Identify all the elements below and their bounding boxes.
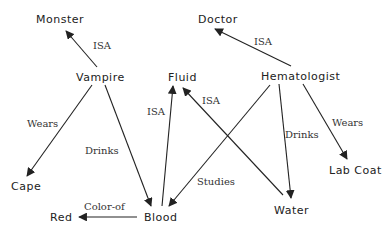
edge-label-vampire-cape: Wears bbox=[27, 118, 58, 129]
node-water: Water bbox=[274, 204, 309, 217]
edge-label-blood-fluid: ISA bbox=[147, 106, 166, 117]
node-lab-coat: Lab Coat bbox=[329, 164, 382, 177]
edge-label-hematologist-water: Drinks bbox=[285, 129, 319, 140]
edge-vampire-wears-cape bbox=[27, 85, 92, 176]
edge-label-hematologist-doctor: ISA bbox=[254, 36, 273, 47]
semantic-network-diagram: ISA ISA Wears Drinks ISA ISA Studies Dri… bbox=[0, 0, 386, 235]
node-vampire: Vampire bbox=[76, 71, 125, 84]
node-monster: Monster bbox=[36, 13, 84, 26]
edge-label-vampire-blood: Drinks bbox=[85, 145, 119, 156]
edge-label-blood-red: Color-of bbox=[84, 201, 126, 212]
node-red: Red bbox=[50, 211, 72, 224]
edge-hematologist-drinks-water bbox=[279, 84, 291, 198]
edge-label-hematologist-labcoat: Wears bbox=[332, 117, 363, 128]
node-doctor: Doctor bbox=[198, 13, 238, 26]
edge-blood-isa-fluid bbox=[162, 86, 173, 206]
edge-label-vampire-monster: ISA bbox=[93, 40, 112, 51]
edge-label-hematologist-blood: Studies bbox=[197, 176, 235, 187]
node-hematologist: Hematologist bbox=[261, 70, 341, 83]
node-fluid: Fluid bbox=[168, 71, 197, 84]
node-cape: Cape bbox=[11, 180, 41, 193]
edge-label-water-fluid: ISA bbox=[202, 95, 221, 106]
edge-hematologist-isa-doctor bbox=[215, 29, 291, 66]
node-blood: Blood bbox=[144, 211, 178, 224]
